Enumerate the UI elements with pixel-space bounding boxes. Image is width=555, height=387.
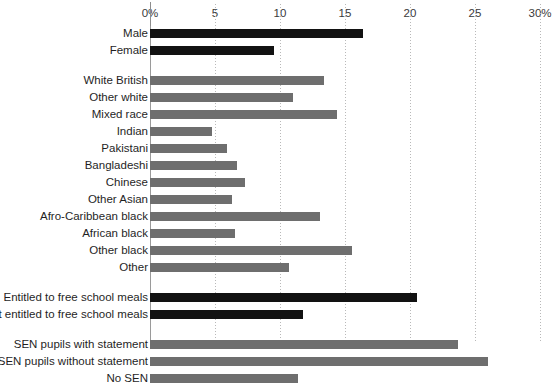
category-label: Other black xyxy=(89,243,148,260)
category-label: African black xyxy=(82,226,148,243)
bar-row: Not entitled to free school meals xyxy=(0,307,555,324)
category-label: Afro-Caribbean black xyxy=(40,209,148,226)
category-label: SEN pupils without statement xyxy=(0,354,148,371)
category-label: Bangladeshi xyxy=(85,158,148,175)
bar-row: Other black xyxy=(0,243,555,260)
bar-row: Other xyxy=(0,260,555,277)
category-label: Pakistani xyxy=(101,141,148,158)
bar xyxy=(150,293,417,302)
bar xyxy=(150,46,274,55)
bar xyxy=(150,374,298,383)
bar-row: Mixed race xyxy=(0,107,555,124)
bar-row: Female xyxy=(0,43,555,60)
bar-row: Male xyxy=(0,26,555,43)
category-label: SEN pupils with statement xyxy=(14,337,148,354)
category-label: Other Asian xyxy=(88,192,148,209)
category-label: Other white xyxy=(89,90,148,107)
bar xyxy=(150,195,232,204)
bar-row: White British xyxy=(0,73,555,90)
bar xyxy=(150,76,324,85)
bar-row: Other white xyxy=(0,90,555,107)
bar xyxy=(150,310,303,319)
bar-row: Chinese xyxy=(0,175,555,192)
bar-row: SEN pupils without statement xyxy=(0,354,555,371)
category-label: No SEN xyxy=(106,371,148,387)
category-label: Entitled to free school meals xyxy=(4,290,148,307)
bar xyxy=(150,246,352,255)
bar-row: Indian xyxy=(0,124,555,141)
bar-row: Pakistani xyxy=(0,141,555,158)
bar xyxy=(150,144,227,153)
bar xyxy=(150,127,212,136)
bar xyxy=(150,29,363,38)
bar xyxy=(150,212,320,221)
bar xyxy=(150,161,237,170)
bar-row: Other Asian xyxy=(0,192,555,209)
bar xyxy=(150,93,293,102)
category-label: Other xyxy=(119,260,148,277)
category-label: Chinese xyxy=(106,175,148,192)
bar-row: No SEN xyxy=(0,371,555,387)
category-label: White British xyxy=(83,73,148,90)
bar xyxy=(150,178,245,187)
bar xyxy=(150,229,235,238)
bar xyxy=(150,263,289,272)
category-label: Not entitled to free school meals xyxy=(0,307,148,324)
bar-row: African black xyxy=(0,226,555,243)
bar-row: Afro-Caribbean black xyxy=(0,209,555,226)
bar-row: Entitled to free school meals xyxy=(0,290,555,307)
category-label: Female xyxy=(110,43,148,60)
category-label: Mixed race xyxy=(92,107,148,124)
category-label: Male xyxy=(123,26,148,43)
bar-row: SEN pupils with statement xyxy=(0,337,555,354)
bar xyxy=(150,357,488,366)
bar-row: Bangladeshi xyxy=(0,158,555,175)
category-label: Indian xyxy=(117,124,148,141)
bar xyxy=(150,110,337,119)
bar xyxy=(150,340,458,349)
